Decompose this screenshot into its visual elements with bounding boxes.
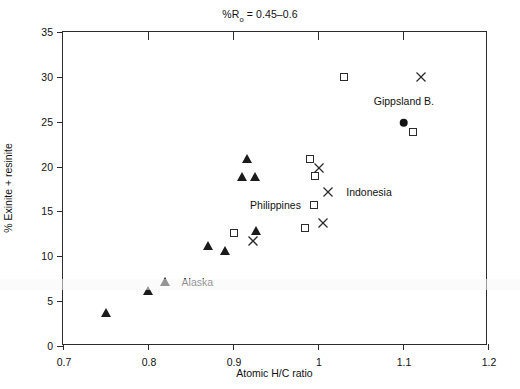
data-point-philippines — [310, 201, 318, 209]
x-axis-tick-top — [148, 32, 149, 40]
y-axis-tick-label: 35 — [41, 26, 53, 38]
data-point-philippines — [230, 229, 238, 237]
data-point-alaska — [242, 154, 252, 163]
data-point-alaska — [203, 241, 213, 250]
y-axis-tick: 15 — [57, 211, 63, 212]
x-axis-tick-top — [318, 32, 319, 40]
chart-title-subscript: o — [239, 15, 243, 24]
chart-title: %Ro = 0.45–0.6 — [0, 8, 520, 23]
data-point-indonesia — [323, 186, 334, 197]
x-axis-label: Atomic H/C ratio — [62, 367, 487, 379]
data-point-alaska — [143, 286, 153, 295]
x-axis-tick: 0.8 — [148, 344, 149, 350]
data-point-philippines — [409, 128, 417, 136]
y-axis-label: % Exinite + resinite — [2, 143, 14, 233]
x-axis-tick: 0.7 — [63, 344, 64, 350]
data-point-indonesia — [318, 218, 329, 229]
data-point-gippsland-b — [400, 118, 409, 127]
x-axis-tick: 0.9 — [233, 344, 234, 350]
x-axis-tick-top — [233, 32, 234, 40]
x-axis-tick: 1 — [318, 344, 319, 350]
data-point-alaska — [250, 172, 260, 181]
x-axis-tick-top — [403, 32, 404, 40]
data-point-alaska — [160, 277, 170, 286]
data-point-alaska — [251, 226, 261, 235]
data-point-indonesia — [247, 236, 258, 247]
y-axis-tick-label: 25 — [41, 116, 53, 128]
data-point-philippines — [340, 73, 348, 81]
y-axis-tick-label: 5 — [47, 295, 53, 307]
x-axis-tick: 1.1 — [403, 344, 404, 350]
x-axis-tick: 1.2 — [488, 344, 489, 350]
y-axis-tick: 25 — [57, 122, 63, 123]
annotation-label-philippines: Philippines — [250, 199, 301, 211]
data-point-alaska — [101, 308, 111, 317]
y-axis-tick: 30 — [57, 77, 63, 78]
data-point-indonesia — [415, 71, 426, 82]
data-point-alaska — [220, 246, 230, 255]
y-axis-tick: 20 — [57, 167, 63, 168]
y-axis-tick-label: 10 — [41, 250, 53, 262]
data-point-indonesia — [313, 163, 324, 174]
y-axis-tick-label: 30 — [41, 71, 53, 83]
annotation-label-alaska: Alaska — [182, 276, 214, 288]
data-point-philippines — [301, 224, 309, 232]
y-axis-tick-label: 20 — [41, 161, 53, 173]
plot-area: 051015202530350.70.80.911.11.2AlaskaPhil… — [62, 31, 487, 345]
annotation-label-gippsland-b: Gippsland B. — [374, 95, 434, 107]
chart-title-suffix: = 0.45–0.6 — [244, 8, 298, 20]
chart-title-prefix: %R — [222, 8, 239, 20]
y-axis-tick: 5 — [57, 301, 63, 302]
annotation-label-indonesia: Indonesia — [346, 186, 392, 198]
data-point-alaska — [237, 172, 247, 181]
y-axis-tick: 10 — [57, 256, 63, 257]
y-axis-tick-label: 15 — [41, 205, 53, 217]
y-axis-tick: 35 — [57, 32, 63, 33]
scatter-chart-figure: %Ro = 0.45–0.6 051015202530350.70.80.911… — [0, 0, 520, 389]
y-axis-tick-label: 0 — [47, 340, 53, 352]
